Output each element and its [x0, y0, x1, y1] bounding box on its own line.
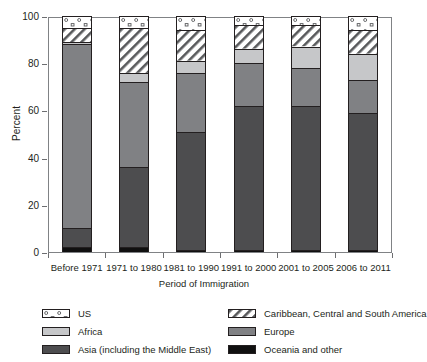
bar-segment-africa[interactable] [291, 47, 321, 68]
legend-label: Europe [264, 326, 295, 337]
y-tick-mark [42, 159, 47, 160]
legend-item-asia[interactable]: Asia (including the Middle East) [42, 342, 211, 356]
x-tick-label: Before 1971 [48, 262, 105, 273]
bar-segment-oceania[interactable] [176, 250, 206, 252]
legend-swatch-asia-icon [42, 345, 70, 354]
legend-swatch-us-icon [42, 309, 70, 318]
y-tick-mark [42, 206, 47, 207]
plot-area [48, 17, 392, 253]
bar-segment-europe[interactable] [62, 44, 92, 228]
bar-segment-asia[interactable] [62, 228, 92, 247]
bar-segment-europe[interactable] [234, 63, 264, 105]
x-tick-mark [277, 253, 278, 258]
bar-segment-oceania[interactable] [234, 250, 264, 252]
legend-swatch-africa-icon [42, 327, 70, 336]
legend-label: Africa [78, 326, 102, 337]
y-tick-mark [42, 253, 47, 254]
y-tick-label: 0 [11, 248, 39, 258]
x-tick-mark [335, 253, 336, 258]
bar-segment-asia[interactable] [119, 167, 149, 247]
legend-swatch-europe-icon [228, 327, 256, 336]
bar-segment-europe[interactable] [291, 68, 321, 106]
bar-group[interactable] [348, 16, 378, 252]
bar-segment-asia[interactable] [176, 132, 206, 250]
y-tick-mark [42, 64, 47, 65]
x-tick-mark [163, 253, 164, 258]
x-axis-title: Period of Immigration [0, 278, 408, 289]
bar-group[interactable] [119, 16, 149, 252]
bar-segment-oceania[interactable] [62, 247, 92, 252]
x-tick-label: 1971 to 1980 [105, 262, 162, 273]
bar-segment-us[interactable] [234, 16, 264, 25]
x-tick-label: 1981 to 1990 [163, 262, 220, 273]
bar-segment-us[interactable] [291, 16, 321, 25]
bar-segment-europe[interactable] [348, 80, 378, 113]
bar-segment-us[interactable] [119, 16, 149, 28]
legend-label: Asia (including the Middle East) [78, 344, 211, 355]
legend-swatch-caribbean-icon [228, 309, 256, 318]
x-tick-mark [220, 253, 221, 258]
y-tick-label: 20 [11, 201, 39, 211]
legend-item-europe[interactable]: Europe [228, 324, 295, 338]
bar-segment-caribbean[interactable] [291, 25, 321, 46]
bar-segment-caribbean[interactable] [348, 30, 378, 54]
x-tick-label: 2006 to 2011 [335, 262, 392, 273]
bar-segment-africa[interactable] [348, 54, 378, 80]
bar-group[interactable] [234, 16, 264, 252]
legend-item-us[interactable]: US [42, 306, 91, 320]
legend-label: Caribbean, Central and South America [264, 308, 427, 319]
x-tick-mark [105, 253, 106, 258]
legend-item-africa[interactable]: Africa [42, 324, 102, 338]
chart-legend: USCaribbean, Central and South AmericaAf… [42, 306, 402, 358]
bar-segment-oceania[interactable] [291, 250, 321, 252]
y-tick-label: 40 [11, 154, 39, 164]
y-tick-label: 100 [11, 12, 39, 22]
x-tick-label: 1991 to 2000 [220, 262, 277, 273]
bar-segment-caribbean[interactable] [176, 30, 206, 61]
bar-segment-africa[interactable] [176, 61, 206, 73]
legend-swatch-oceania-icon [228, 345, 256, 354]
bar-segment-us[interactable] [348, 16, 378, 30]
x-tick-mark [392, 253, 393, 258]
legend-item-oceania[interactable]: Oceania and other [228, 342, 342, 356]
bar-segment-caribbean[interactable] [62, 28, 92, 42]
x-tick-mark [48, 253, 49, 258]
y-tick-mark [42, 111, 47, 112]
bar-segment-africa[interactable] [62, 42, 92, 44]
x-tick-label: 2001 to 2005 [277, 262, 334, 273]
y-tick-label: 80 [11, 59, 39, 69]
legend-label: US [78, 308, 91, 319]
bar-group[interactable] [291, 16, 321, 252]
y-tick-mark [42, 17, 47, 18]
bar-segment-europe[interactable] [119, 82, 149, 167]
bar-group[interactable] [176, 16, 206, 252]
bar-group[interactable] [62, 16, 92, 252]
bar-segment-asia[interactable] [291, 106, 321, 250]
bar-segment-caribbean[interactable] [234, 25, 264, 49]
bar-segment-asia[interactable] [348, 113, 378, 250]
bar-segment-us[interactable] [176, 16, 206, 30]
legend-label: Oceania and other [264, 344, 342, 355]
bar-segment-us[interactable] [62, 16, 92, 28]
y-axis-title: Percent [11, 84, 22, 164]
bar-segment-oceania[interactable] [119, 247, 149, 252]
legend-item-caribbean[interactable]: Caribbean, Central and South America [228, 306, 427, 320]
bar-segment-oceania[interactable] [348, 250, 378, 252]
y-tick-label: 60 [11, 106, 39, 116]
bar-segment-africa[interactable] [119, 73, 149, 82]
bar-segment-africa[interactable] [234, 49, 264, 63]
bar-segment-europe[interactable] [176, 73, 206, 132]
bar-segment-caribbean[interactable] [119, 28, 149, 73]
bar-segment-asia[interactable] [234, 106, 264, 250]
